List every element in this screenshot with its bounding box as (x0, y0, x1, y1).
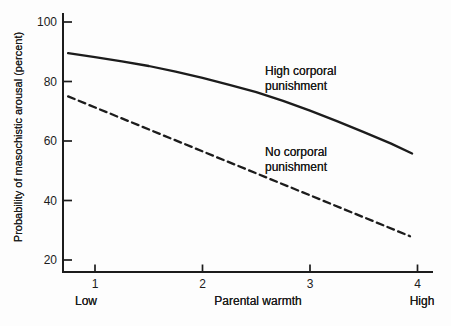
series-label-line: punishment (265, 79, 336, 94)
x-tick-label: 2 (199, 277, 206, 291)
series-line-dashed (68, 96, 410, 236)
x-tick-label: 1 (92, 277, 99, 291)
axes (63, 13, 433, 272)
x-axis-max-label: High (392, 295, 451, 307)
series-label-line: punishment (265, 160, 327, 175)
series-label-line: High corporal (265, 64, 336, 79)
series-label-no-corporal-punishment: No corporal punishment (265, 145, 327, 174)
y-tick-label: 40 (44, 194, 58, 208)
x-axis-min-label: Low (56, 295, 116, 307)
series-label-line: No corporal (265, 145, 327, 160)
series-label-high-corporal-punishment: High corporal punishment (265, 64, 336, 93)
y-tick-label: 20 (44, 253, 58, 267)
y-tick-label: 100 (37, 15, 57, 29)
x-tick-label: 3 (307, 277, 314, 291)
chart-figure: 100806040201234 Probability of masochist… (0, 0, 451, 326)
y-axis-title: Probability of masochistic arousal (perc… (12, 14, 28, 260)
y-tick-label: 60 (44, 134, 58, 148)
x-axis-title: Parental warmth (183, 295, 333, 307)
series-line-solid (68, 53, 412, 153)
y-tick-label: 80 (44, 75, 58, 89)
chart-canvas: 100806040201234 (0, 0, 451, 326)
x-tick-label: 4 (414, 277, 421, 291)
